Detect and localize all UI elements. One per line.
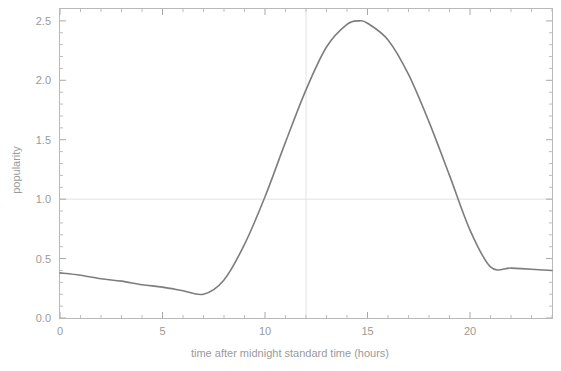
y-axis-title: popularity <box>10 146 22 194</box>
y-tick-label: 0.5 <box>36 253 51 265</box>
y-tick-label: 1.0 <box>36 193 51 205</box>
x-tick-label: 15 <box>361 325 373 337</box>
y-tick-label: 0.0 <box>36 312 51 324</box>
y-axis-tick-labels: 0.00.51.01.52.02.5 <box>36 15 51 324</box>
y-tick-label: 2.5 <box>36 15 51 27</box>
chart-figure: 0.00.51.01.52.02.5 05101520 time after m… <box>0 0 561 371</box>
chart-plot-area: 0.00.51.01.52.02.5 05101520 time after m… <box>0 0 561 371</box>
x-tick-label: 5 <box>159 325 165 337</box>
x-tick-label: 10 <box>259 325 271 337</box>
x-axis-tick-labels: 05101520 <box>57 325 476 337</box>
gridlines-group <box>60 9 552 318</box>
y-tick-label: 2.0 <box>36 74 51 86</box>
x-axis-title: time after midnight standard time (hours… <box>191 347 389 359</box>
x-tick-label: 20 <box>464 325 476 337</box>
x-tick-label: 0 <box>57 325 63 337</box>
y-tick-label: 1.5 <box>36 134 51 146</box>
